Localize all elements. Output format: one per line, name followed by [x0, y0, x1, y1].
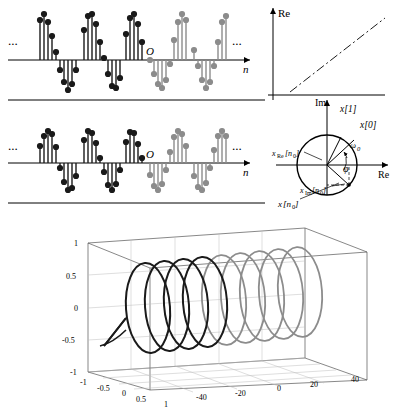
re-axis-label-phasor: Re [378, 169, 390, 180]
re-axis-diagram: Re [268, 7, 385, 100]
x-re-arg: [n [285, 149, 292, 158]
phi-label: φ [343, 163, 349, 174]
x-re-sub: Re [277, 153, 284, 159]
ellipsis-right-imag: ... [232, 138, 242, 153]
origin-label-imag: O [146, 148, 154, 160]
z-tick-m05: -0.5 [62, 336, 75, 345]
x-tick-m20: -20 [235, 389, 246, 398]
x-im-label: x [299, 186, 304, 195]
x-n0-bracket: ] [294, 199, 299, 209]
x-tick-40: 40 [351, 375, 359, 384]
re-axis-label: Re [278, 7, 290, 19]
y-tick-m05: -0.5 [97, 384, 110, 393]
ellipsis-left-imag: ... [8, 138, 18, 153]
ellipsis-left-real: ... [8, 33, 18, 48]
z-tick-0: 0 [74, 304, 78, 313]
y-tick-05: 0.5 [136, 395, 146, 404]
z-tick-m1: -1 [70, 368, 77, 377]
x-im-arg: [n [312, 186, 319, 195]
x-re-bracket: ] [295, 149, 299, 158]
omega-sub: 0 [357, 145, 361, 152]
x-tick-m40: -40 [196, 393, 207, 402]
x-im-bracket: ] [322, 186, 326, 195]
z-tick-1: 1 [74, 239, 78, 248]
sample-x0-label: x[0] [359, 120, 377, 130]
im-axis-label: Im [315, 97, 326, 108]
y-tick-1: 1 [164, 400, 168, 409]
phasor-circle-diagram: Im Re x[1] x[0] ω 0 φ x Re [n 0 ] x Im [… [271, 97, 390, 210]
y-tick-0: 0 [122, 389, 126, 398]
imaginary-part-stem-plot: ... ... O n [8, 129, 250, 193]
figure-svg: ... ... O n Re [0, 0, 393, 410]
figure-root: ... ... O n Re [0, 0, 393, 410]
sample-x1-label: x[1] [339, 104, 357, 114]
x-n0-label: x [277, 199, 282, 209]
origin-label-real: O [146, 45, 154, 57]
real-part-stem-plot: ... ... O n [8, 12, 250, 93]
x-re-label: x [271, 149, 276, 158]
x-tick-0: 0 [277, 384, 281, 393]
ellipsis-right-real: ... [232, 33, 242, 48]
helix-3d-plot: 1 0.5 0 -0.5 -1 -1 -0.5 0 0.5 1 -40 -20 … [62, 228, 367, 409]
x-im-sub: Im [305, 190, 312, 196]
omega-label: ω [350, 140, 356, 150]
x-axis-label-real: n [243, 63, 249, 75]
x-tick-20: 20 [310, 380, 318, 389]
x-axis-label-imag: n [243, 166, 249, 178]
x-n0-arg: [n [283, 199, 292, 209]
y-tick-m1: -1 [80, 378, 87, 387]
z-tick-05: 0.5 [66, 272, 76, 281]
